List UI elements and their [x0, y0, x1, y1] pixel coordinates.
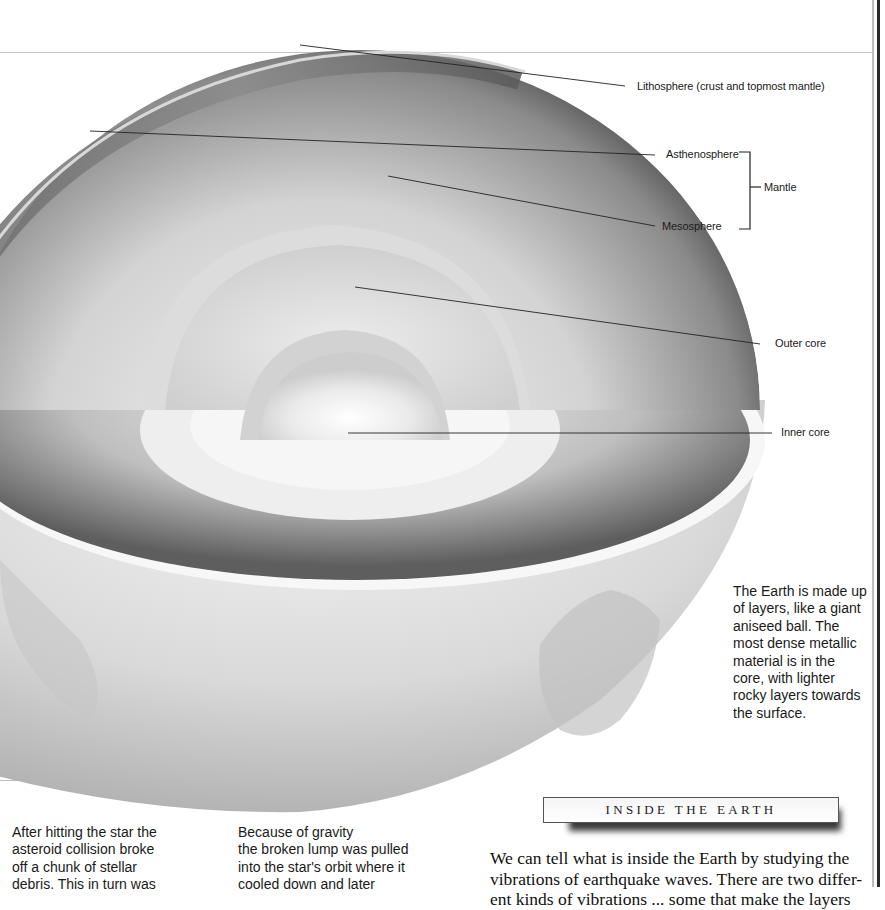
label-asthenosphere: Asthenosphere	[666, 148, 739, 160]
caption-line: the surface.	[733, 705, 883, 722]
section-heading: INSIDE THE EARTH	[605, 802, 776, 818]
illustration-caption: The Earth is made up of layers, like a g…	[733, 583, 883, 722]
section-heading-box: INSIDE THE EARTH	[543, 797, 843, 831]
text-line: Because of gravity	[238, 824, 408, 841]
label-outer-core: Outer core	[775, 337, 826, 349]
text-line: into the star's orbit where it	[238, 859, 408, 876]
heading-frame: INSIDE THE EARTH	[543, 797, 839, 823]
caption-line: core, with lighter	[733, 670, 883, 687]
label-mantle: Mantle	[764, 181, 796, 193]
label-inner-core: Inner core	[781, 426, 830, 438]
label-mesosphere: Mesosphere	[662, 220, 722, 232]
middle-column-text: Because of gravity the broken lump was p…	[238, 824, 408, 893]
caption-line: rocky layers towards	[733, 687, 883, 704]
text-line: We can tell what is inside the Earth by …	[490, 848, 862, 869]
caption-line: of layers, like a giant	[733, 600, 883, 617]
caption-line: material is in the	[733, 653, 883, 670]
caption-line: aniseed ball. The	[733, 618, 883, 635]
text-line: ent kinds of vibrations ... some that ma…	[490, 889, 862, 910]
text-line: asteroid collision broke	[12, 841, 157, 858]
caption-line: most dense metallic	[733, 635, 883, 652]
text-line: cooled down and later	[238, 876, 408, 893]
mantle-bracket	[739, 152, 750, 229]
caption-line: The Earth is made up	[733, 583, 883, 600]
text-line: vibrations of earthquake waves. There ar…	[490, 869, 862, 890]
left-column-text: After hitting the star the asteroid coll…	[12, 824, 157, 893]
text-line: the broken lump was pulled	[238, 841, 408, 858]
text-line: off a chunk of stellar	[12, 859, 157, 876]
text-line: debris. This in turn was	[12, 876, 157, 893]
label-lithosphere: Lithosphere (crust and topmost mantle)	[637, 80, 825, 92]
text-line: After hitting the star the	[12, 824, 157, 841]
section-body-text: We can tell what is inside the Earth by …	[490, 848, 862, 910]
